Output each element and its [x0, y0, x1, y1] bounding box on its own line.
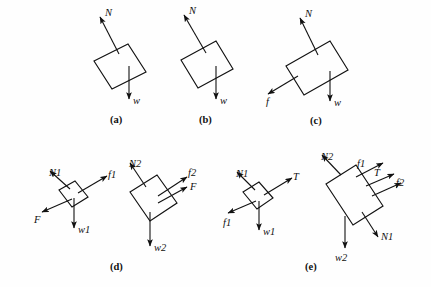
label-d1-f1: f1	[108, 169, 116, 180]
force-vector-e2-T	[366, 174, 394, 186]
label-b-N: N	[188, 5, 197, 16]
force-vector-c-f	[268, 76, 298, 94]
label-a-w: w	[133, 95, 140, 106]
caption-b: (b)	[199, 114, 212, 126]
block-d2	[130, 175, 177, 221]
label-e2-f2: f2	[396, 177, 405, 188]
block-c	[286, 41, 348, 95]
diagram-svg: N w (a) N w (b) N f w (c) N1 f1 F w1 N2 …	[0, 0, 431, 287]
force-vector-e1-T	[264, 178, 292, 195]
label-d1-F: F	[33, 214, 41, 225]
label-e1-T: T	[293, 171, 300, 182]
label-c-f: f	[266, 96, 271, 107]
figure-canvas: N w (a) N w (b) N f w (c) N1 f1 F w1 N2 …	[0, 0, 431, 287]
force-vector-c-N	[300, 18, 318, 55]
label-d1-N1: N1	[48, 167, 61, 178]
caption-a: (a)	[110, 114, 123, 126]
label-e2-w2: w2	[335, 252, 348, 263]
force-vector-e2-N1	[362, 212, 378, 237]
label-c-w: w	[334, 97, 341, 108]
force-vector-b-N	[184, 15, 206, 53]
block-a	[94, 44, 146, 89]
force-vector-e1-f1	[228, 201, 256, 213]
caption-e: (e)	[305, 261, 317, 273]
label-e2-N1: N1	[380, 231, 393, 242]
force-vector-d2-F	[158, 187, 187, 203]
force-vector-d1-f1	[78, 176, 107, 193]
panel-a	[94, 17, 146, 99]
panel-e-body-1	[228, 172, 292, 230]
force-vector-d2-f2	[158, 177, 187, 196]
panel-c	[268, 18, 348, 101]
label-c-N: N	[304, 8, 313, 19]
label-e1-w1: w1	[263, 226, 275, 237]
label-d2-F: F	[189, 181, 197, 192]
label-b-w: w	[220, 95, 227, 106]
panel-d-body-2	[130, 163, 187, 246]
label-a-N: N	[104, 7, 113, 18]
caption-c: (c)	[310, 115, 322, 127]
label-e2-T: T	[374, 167, 381, 178]
label-d2-N2: N2	[128, 158, 142, 169]
label-d2-f2: f2	[188, 167, 197, 178]
label-e1-f1: f1	[223, 217, 231, 228]
panel-d-body-1	[42, 171, 107, 228]
force-vector-d1-F	[42, 199, 72, 212]
label-d2-w2: w2	[154, 242, 167, 253]
block-b	[181, 41, 233, 88]
label-e2-f1: f1	[357, 158, 365, 169]
caption-d: (d)	[110, 261, 123, 273]
force-vector-a-N	[100, 17, 119, 54]
label-d1-w1: w1	[78, 224, 90, 235]
panel-b	[181, 15, 233, 99]
label-e1-N1: N1	[235, 168, 248, 179]
label-e2-N2: N2	[320, 151, 334, 162]
